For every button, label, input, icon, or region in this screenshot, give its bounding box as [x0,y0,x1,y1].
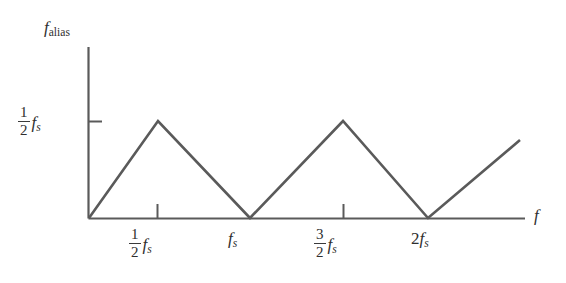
alias-waveform-line [89,121,520,218]
x-tick-label-prefix: 2 [411,229,420,248]
x-tick-label-fs: fs [228,230,237,250]
fraction-one-half: 1 2 [18,105,30,138]
x-tick-label-subscript: s [233,237,238,250]
x-tick-label-half-fs: 1 2 fs [129,227,152,260]
fraction-three-halves: 3 2 [314,227,326,260]
y-axis-label-subscript: alias [49,26,70,39]
fraction-numerator: 1 [18,105,30,122]
fraction-denominator: 2 [18,122,30,138]
x-tick-label-three-half-fs: 3 2 fs [314,227,337,260]
x-axis-label-base: f [534,206,539,225]
plot-canvas [0,0,566,283]
y-axis-label: falias [44,19,70,39]
fraction-numerator: 1 [129,227,141,244]
fraction-numerator: 3 [314,227,326,244]
x-tick-label-subscript: s [147,243,152,256]
y-tick-label-subscript: s [36,121,41,134]
aliasing-figure: falias 1 2 fs 1 2 fs fs 3 2 fs 2fs f [0,0,566,283]
y-tick-label-half-fs: 1 2 fs [18,105,41,138]
x-tick-label-two-fs: 2fs [411,230,429,250]
x-tick-label-subscript: s [332,243,337,256]
fraction-denominator: 2 [314,244,326,260]
fraction-one-half: 1 2 [129,227,141,260]
fraction-denominator: 2 [129,244,141,260]
x-axis-label: f [534,207,539,224]
x-tick-label-subscript: s [424,237,429,250]
